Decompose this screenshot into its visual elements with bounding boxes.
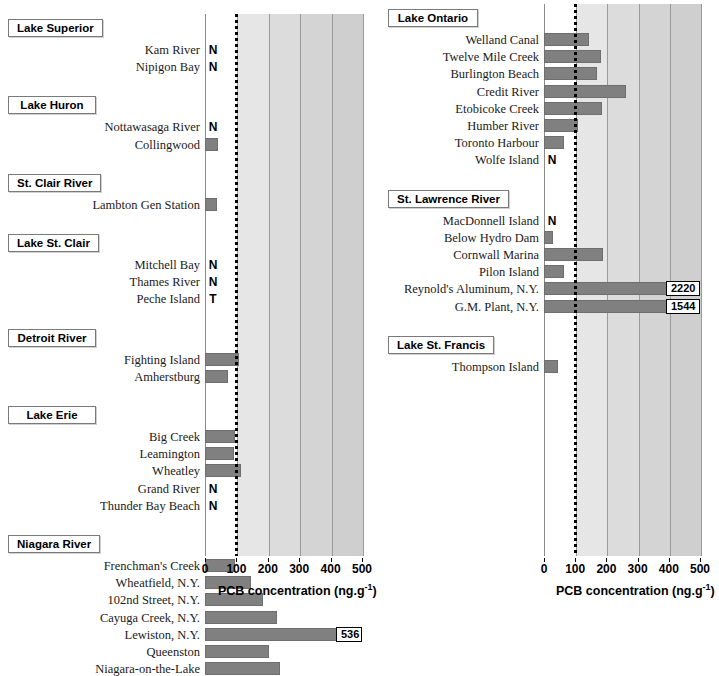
bar bbox=[544, 265, 564, 278]
site-label: Fighting Island bbox=[124, 354, 200, 367]
axis-title-text: PCB concentration (ng.g bbox=[218, 584, 365, 598]
reference-line-100 bbox=[574, 4, 577, 556]
bar bbox=[205, 430, 235, 443]
group-label-lake-st-clair: Lake St. Clair bbox=[8, 234, 99, 252]
site-label: Below Hydro Dam bbox=[444, 232, 539, 245]
site-label: Pilon Island bbox=[479, 266, 539, 279]
chart-panel-left: Lake SuperiorLake HuronSt. Clair RiverLa… bbox=[0, 0, 370, 615]
site-label: Lewiston, N.Y. bbox=[125, 629, 200, 642]
site-label: Twelve Mile Creek bbox=[443, 51, 539, 64]
site-label: Thames River bbox=[130, 276, 200, 289]
bar bbox=[544, 85, 626, 98]
bar bbox=[205, 198, 217, 211]
bar bbox=[205, 611, 277, 624]
site-label: Mitchell Bay bbox=[134, 259, 200, 272]
site-label: Thompson Island bbox=[452, 361, 539, 374]
reference-line-100 bbox=[235, 14, 238, 556]
axis-title-text: PCB concentration (ng.g bbox=[556, 584, 703, 598]
chart-panel-right: Lake OntarioSt. Lawrence RiverLake St. F… bbox=[370, 0, 701, 615]
non-detect-marker: N bbox=[545, 215, 559, 228]
gridline bbox=[332, 14, 333, 556]
site-label: Burlington Beach bbox=[450, 68, 539, 81]
group-label-niagara-river: Niagara River bbox=[8, 535, 100, 553]
gridline bbox=[300, 14, 301, 556]
bar bbox=[544, 33, 589, 46]
site-label: Wheatfield, N.Y. bbox=[116, 577, 200, 590]
axis-band bbox=[670, 4, 701, 556]
x-axis-title-right: PCB concentration (ng.g-1) bbox=[556, 582, 715, 598]
site-label: Kam River bbox=[145, 44, 200, 57]
bar bbox=[544, 360, 558, 373]
site-label: MacDonnell Island bbox=[443, 215, 539, 228]
site-label: Cornwall Marina bbox=[453, 249, 539, 262]
group-label-lake-superior: Lake Superior bbox=[8, 19, 103, 37]
site-label: Peche Island bbox=[136, 293, 200, 306]
bar-value-label: 2220 bbox=[666, 281, 700, 296]
group-label-lake-erie: Lake Erie bbox=[8, 406, 96, 424]
bar bbox=[205, 662, 280, 675]
site-label: Reynold's Aluminum, N.Y. bbox=[404, 283, 539, 296]
non-detect-marker: N bbox=[206, 121, 220, 134]
non-detect-marker: N bbox=[206, 259, 220, 272]
axis-title-close: ) bbox=[711, 584, 715, 598]
site-label: Nottawasaga River bbox=[105, 121, 200, 134]
site-label: Cayuga Creek, N.Y. bbox=[100, 612, 200, 625]
site-label: Niagara-on-the-Lake bbox=[95, 663, 200, 676]
bar-value-label: 536 bbox=[336, 627, 362, 642]
site-label: Etobicoke Creek bbox=[455, 103, 539, 116]
non-detect-marker: T bbox=[206, 293, 220, 306]
bar bbox=[205, 138, 218, 151]
bar bbox=[205, 353, 239, 366]
site-label: Credit River bbox=[477, 86, 539, 99]
gridline bbox=[670, 4, 671, 556]
bar bbox=[544, 67, 597, 80]
axis-title-exponent: -1 bbox=[703, 582, 711, 592]
axis-band bbox=[237, 14, 268, 556]
non-detect-marker: N bbox=[206, 276, 220, 289]
group-label-lake-huron: Lake Huron bbox=[8, 96, 96, 114]
site-label: 102nd Street, N.Y. bbox=[108, 594, 200, 607]
site-label: Thunder Bay Beach bbox=[100, 500, 200, 513]
site-label: Nipigon Bay bbox=[136, 61, 200, 74]
axis-band bbox=[332, 14, 363, 556]
x-axis-title-left: PCB concentration (ng.g-1) bbox=[218, 582, 377, 598]
site-label: Toronto Harbour bbox=[455, 137, 539, 150]
gridline bbox=[363, 14, 364, 556]
site-label: Humber River bbox=[467, 120, 539, 133]
group-label-lake-ontario: Lake Ontario bbox=[388, 9, 478, 27]
site-label: Lambton Gen Station bbox=[92, 199, 200, 212]
bar bbox=[544, 50, 601, 63]
bar bbox=[544, 231, 553, 244]
site-label: Wheatley bbox=[152, 465, 200, 478]
bar bbox=[544, 102, 602, 115]
bar bbox=[205, 370, 228, 383]
group-label-detroit-river: Detroit River bbox=[8, 329, 96, 347]
bar bbox=[544, 136, 564, 149]
bar bbox=[544, 119, 578, 132]
site-label: Big Creek bbox=[149, 431, 200, 444]
non-detect-marker: N bbox=[206, 61, 220, 74]
site-label: Welland Canal bbox=[465, 34, 539, 47]
bar-value-label: 1544 bbox=[666, 299, 700, 314]
axis-tick-label: 500 bbox=[680, 562, 719, 576]
axis-band bbox=[639, 4, 670, 556]
site-label: Amherstburg bbox=[134, 371, 200, 384]
gridline bbox=[639, 4, 640, 556]
site-label: Wolfe Island bbox=[475, 154, 539, 167]
gridline bbox=[269, 14, 270, 556]
gridline bbox=[701, 4, 702, 556]
axis-band bbox=[269, 14, 300, 556]
site-label: Leamington bbox=[140, 448, 200, 461]
group-label-lake-st-francis: Lake St. Francis bbox=[388, 336, 494, 354]
site-label: Grand River bbox=[138, 483, 200, 496]
non-detect-marker: N bbox=[206, 500, 220, 513]
bar bbox=[205, 645, 269, 658]
bar bbox=[205, 447, 234, 460]
site-label: G.M. Plant, N.Y. bbox=[455, 301, 539, 314]
site-label: Queenston bbox=[147, 646, 200, 659]
group-label-st-lawrence-river: St. Lawrence River bbox=[388, 190, 509, 208]
group-label-st-clair-river: St. Clair River bbox=[8, 174, 101, 192]
non-detect-marker: N bbox=[545, 154, 559, 167]
non-detect-marker: N bbox=[206, 44, 220, 57]
non-detect-marker: N bbox=[206, 483, 220, 496]
